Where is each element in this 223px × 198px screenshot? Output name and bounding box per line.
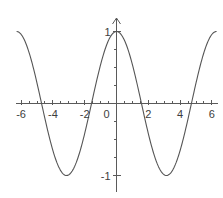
y-tick-label: 1 [104, 26, 110, 38]
x-tick-label: 6 [209, 108, 215, 120]
x-tick-label: -4 [48, 108, 58, 120]
x-tick-label: 2 [145, 108, 151, 120]
x-tick-label: -6 [16, 108, 26, 120]
cosine-plot: -6-4-20246 -11 [0, 0, 223, 198]
x-tick-label: -2 [80, 108, 90, 120]
x-axis-tick-labels: -6-4-20246 [16, 108, 215, 120]
x-tick-label: 4 [177, 108, 183, 120]
graph-figure: -6-4-20246 -11 [0, 0, 223, 198]
x-tick-label: 0 [104, 108, 110, 120]
y-tick-label: -1 [101, 170, 111, 182]
